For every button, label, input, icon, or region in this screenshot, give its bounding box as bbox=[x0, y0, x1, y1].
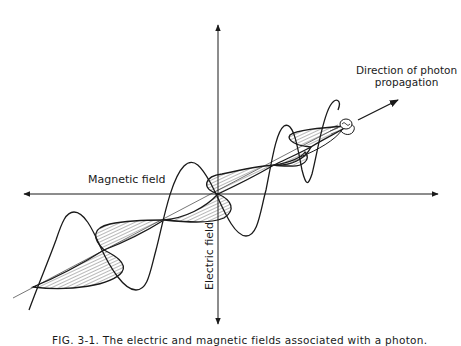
magnetic-field-label: Magnetic field bbox=[88, 174, 166, 187]
direction-label-line1: Direction of photon bbox=[356, 64, 457, 76]
direction-label-line2: propagation bbox=[356, 76, 457, 88]
electric-field-label: Electric field bbox=[203, 222, 216, 290]
direction-of-propagation-label: Direction of photon propagation bbox=[356, 64, 457, 88]
figure-caption: FIG. 3-1. The electric and magnetic fiel… bbox=[52, 334, 427, 346]
propagation-direction-arrow bbox=[358, 100, 398, 120]
propagation-axis bbox=[13, 126, 340, 298]
magnetic-field-wave bbox=[33, 126, 348, 289]
